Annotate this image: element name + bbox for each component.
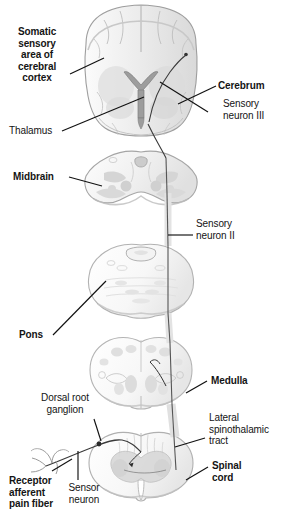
leader-receptor-afferent-pain-fiber — [52, 459, 72, 471]
label-somatic-sensory-area: Somatic sensory area of cerebral cortex — [4, 26, 70, 84]
label-sensory-neuron-ii: Sensory neuron II — [196, 218, 256, 241]
label-medulla: Medulla — [211, 375, 267, 387]
medulla-section — [90, 338, 192, 410]
label-thalamus: Thalamus — [9, 125, 65, 137]
cerebrum-section — [85, 5, 197, 136]
label-sensor-neuron: Sensor neuron — [60, 482, 108, 505]
midbrain-section — [85, 151, 197, 204]
leader-pons — [53, 281, 106, 335]
label-dorsal-root-ganglion: Dorsal root ganglion — [30, 392, 100, 415]
pons-section — [88, 244, 193, 318]
diagram-canvas: Somatic sensory area of cerebral cortex … — [0, 0, 283, 519]
label-pons: Pons — [19, 329, 59, 341]
label-cerebrum: Cerebrum — [218, 80, 282, 92]
leader-dorsal-root-ganglion — [94, 419, 101, 441]
label-midbrain: Midbrain — [13, 171, 69, 183]
label-lateral-spinothalamic-tract: Lateral spinothalamic tract — [209, 412, 283, 447]
label-spinal-cord: Spinal cord — [212, 460, 268, 483]
label-sensory-neuron-iii: Sensory neuron III — [223, 98, 283, 121]
